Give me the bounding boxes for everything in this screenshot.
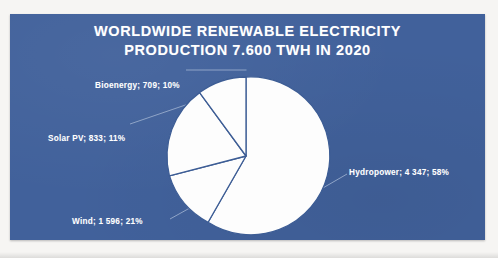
data-label-hydropower: Hydropower; 4 347; 58%: [349, 168, 449, 177]
data-label-solar-pv: Solar PV; 833; 11%: [48, 134, 125, 143]
chart-stage: Bioenergy; 709; 10% Solar PV; 833; 11% W…: [10, 14, 485, 240]
chart-panel: WORLDWIDE RENEWABLE ELECTRICITY PRODUCTI…: [10, 14, 485, 240]
scanned-page: WORLDWIDE RENEWABLE ELECTRICITY PRODUCTI…: [0, 0, 498, 258]
data-label-wind: Wind; 1 596; 21%: [72, 217, 143, 226]
data-label-bioenergy: Bioenergy; 709; 10%: [95, 81, 180, 90]
pie-chart: [10, 14, 485, 240]
